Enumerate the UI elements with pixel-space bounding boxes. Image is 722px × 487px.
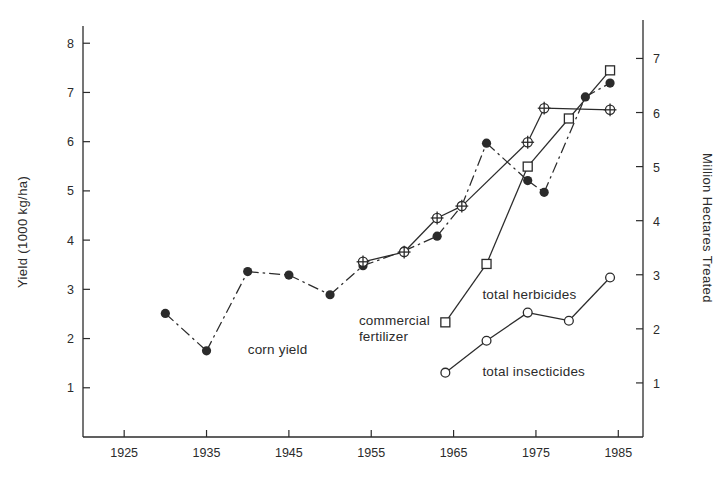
x-tick-label: 1945 bbox=[275, 446, 303, 460]
y2-tick-label: 7 bbox=[653, 52, 660, 66]
y-tick-label: 3 bbox=[67, 283, 74, 297]
data-point-marker bbox=[540, 188, 549, 197]
y2-axis-title: Million Hectares Treated bbox=[700, 153, 715, 303]
y2-tick-label: 6 bbox=[653, 107, 660, 121]
data-point-marker bbox=[441, 368, 450, 377]
data-point-marker bbox=[243, 267, 252, 276]
data-point-marker bbox=[433, 232, 442, 241]
data-point-marker bbox=[482, 139, 491, 148]
data-point-marker bbox=[523, 162, 532, 171]
chart-figure: 12345678 1234567 19251935194519551965197… bbox=[0, 0, 722, 487]
data-point-marker bbox=[523, 176, 532, 185]
y-tick-label: 2 bbox=[67, 332, 74, 346]
data-point-marker bbox=[325, 290, 334, 299]
y-tick-label: 5 bbox=[67, 184, 74, 198]
data-point-marker bbox=[202, 346, 211, 355]
data-point-marker bbox=[564, 316, 573, 325]
data-point-marker bbox=[482, 336, 491, 345]
data-point-marker bbox=[605, 78, 614, 87]
series-annotation-label: commercial bbox=[359, 313, 430, 328]
data-point-marker bbox=[606, 66, 615, 75]
x-tick-label: 1975 bbox=[522, 446, 550, 460]
series-annotation-label: fertilizer bbox=[359, 329, 409, 344]
y2-tick-label: 3 bbox=[653, 269, 660, 283]
data-point-marker bbox=[284, 270, 293, 279]
x-tick-label: 1955 bbox=[357, 446, 385, 460]
data-point-marker bbox=[161, 309, 170, 318]
data-point-marker bbox=[482, 259, 491, 268]
data-point-marker bbox=[523, 308, 532, 317]
data-point-marker bbox=[606, 273, 615, 282]
y2-tick-label: 2 bbox=[653, 323, 660, 337]
series-annotation-label: corn yield bbox=[248, 342, 308, 357]
series-annotation-label: total herbicides bbox=[482, 287, 576, 302]
x-tick-label: 1985 bbox=[604, 446, 632, 460]
series-annotation-label: total insecticides bbox=[482, 364, 585, 379]
corn-yield-pesticide-chart: 12345678 1234567 19251935194519551965197… bbox=[0, 0, 722, 487]
y-axis-title: Yield (1000 kg/ha) bbox=[15, 176, 30, 288]
y2-tick-label: 5 bbox=[653, 161, 660, 175]
y-tick-label: 1 bbox=[67, 381, 74, 395]
y-tick-label: 8 bbox=[67, 37, 74, 51]
y-tick-label: 6 bbox=[67, 135, 74, 149]
x-tick-label: 1965 bbox=[440, 446, 468, 460]
x-tick-label: 1935 bbox=[193, 446, 221, 460]
data-point-marker bbox=[564, 114, 573, 123]
y2-tick-label: 1 bbox=[653, 377, 660, 391]
y2-tick-label: 4 bbox=[653, 215, 660, 229]
data-point-marker bbox=[441, 318, 450, 327]
y-tick-label: 4 bbox=[67, 234, 74, 248]
y-tick-label: 7 bbox=[67, 86, 74, 100]
x-tick-label: 1925 bbox=[110, 446, 138, 460]
